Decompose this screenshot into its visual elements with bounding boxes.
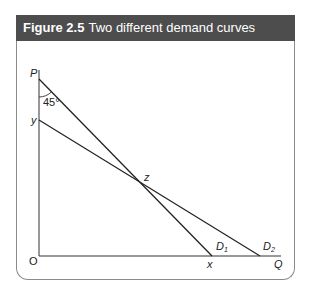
p-axis-label: P — [30, 67, 38, 79]
angle-label: 45° — [43, 96, 60, 108]
demand-curve-d2 — [39, 120, 260, 256]
demand-curve-d1 — [39, 79, 212, 256]
d1-label: D1 — [216, 240, 228, 253]
x-point-label: x — [206, 258, 213, 270]
d2-label: D2 — [263, 240, 275, 253]
q-axis-label: Q — [274, 258, 283, 270]
demand-curves-diagram: P 45° y z O x Q D1 D2 — [0, 0, 310, 289]
origin-label: O — [29, 255, 38, 267]
z-point-label: z — [143, 171, 150, 183]
y-point-label: y — [30, 114, 38, 126]
